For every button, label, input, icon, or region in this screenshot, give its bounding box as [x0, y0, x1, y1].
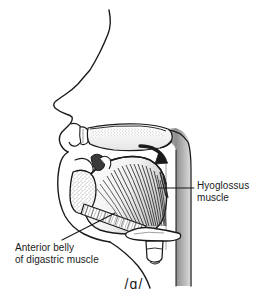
larynx: [146, 241, 163, 264]
anatomical-figure: Hyoglossus muscle Anterior belly of diga…: [0, 0, 268, 300]
label-hyoglossus-muscle: Hyoglossus muscle: [197, 180, 249, 203]
label-hyoglossus-line2: muscle: [197, 192, 249, 204]
phonetic-symbol-caption: /ɑ/: [0, 276, 268, 292]
hard-palate: [87, 124, 172, 151]
label-hyoglossus-line1: Hyoglossus: [197, 180, 249, 192]
hyoid-bone: [126, 228, 181, 242]
label-digastric-line2: of digastric muscle: [15, 254, 99, 266]
label-digastric-line1: Anterior belly: [15, 242, 99, 254]
label-anterior-belly-digastric-muscle: Anterior belly of digastric muscle: [15, 242, 99, 265]
